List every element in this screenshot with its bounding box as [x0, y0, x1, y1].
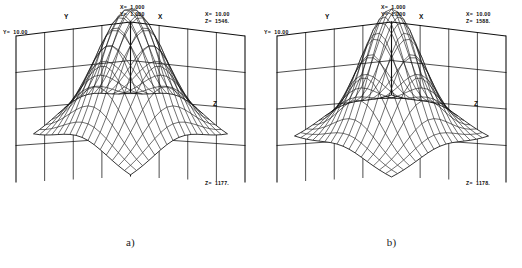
- annotation-z-max-a: Z= 1546.: [205, 18, 229, 24]
- axis-label-x-a: X: [158, 13, 162, 20]
- annotation-x-min-a: X= 1.000: [120, 4, 145, 10]
- annotation-y-min-b: Y= 1.000: [381, 11, 406, 17]
- annotation-top-right-b: X= 10.00Z= 1588.: [466, 11, 491, 25]
- surface-plot-b: [261, 0, 522, 225]
- axis-label-z-b: Z: [474, 100, 478, 107]
- figure-two-surface-plots: X= 1.000Y= 1.000 X= 10.00Z= 1546. Y= 10.…: [0, 0, 522, 268]
- axis-label-z-a: Z: [213, 100, 217, 107]
- plot-panel-b: X= 1.000Y= 1.000 X= 10.00Z= 1588. Y= 10.…: [261, 0, 522, 268]
- surface-fill-mask: [295, 95, 489, 177]
- annotation-x-min-b: X= 1.000: [381, 4, 406, 10]
- axis-label-y-a: Y: [64, 13, 68, 20]
- axis-label-y-b: Y: [325, 13, 329, 20]
- annotation-bottom-right-a: Z= 1177.: [205, 180, 229, 187]
- annotation-top-center-b: X= 1.000Y= 1.000: [381, 4, 406, 18]
- annotation-x-max-a: X= 10.00: [205, 11, 230, 17]
- plot-panel-a: X= 1.000Y= 1.000 X= 10.00Z= 1546. Y= 10.…: [0, 0, 261, 268]
- annotation-x-max-b: X= 10.00: [466, 11, 491, 17]
- panel-caption-b: b): [261, 236, 522, 248]
- annotation-top-right-a: X= 10.00Z= 1546.: [205, 11, 230, 25]
- annotation-z-max-b: Z= 1588.: [466, 18, 490, 24]
- surface-plot-a: [0, 0, 261, 225]
- annotation-left-a: Y= 10.00: [3, 29, 28, 36]
- annotation-y-min-a: Y= 1.000: [120, 11, 145, 17]
- annotation-bottom-right-b: Z= 1178.: [466, 180, 490, 187]
- axis-label-x-b: X: [419, 13, 423, 20]
- panel-caption-a: a): [0, 236, 261, 248]
- annotation-left-b: Y= 10.00: [264, 29, 289, 36]
- annotation-top-center-a: X= 1.000Y= 1.000: [120, 4, 145, 18]
